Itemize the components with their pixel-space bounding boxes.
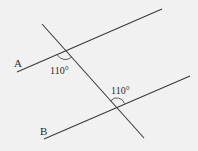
angle-1-label: 110° [50, 65, 69, 76]
transversal-line [42, 24, 144, 138]
line-b-label: B [40, 125, 47, 137]
line-a [17, 9, 162, 72]
line-a-label: A [14, 57, 22, 69]
angle-2-label: 110° [111, 85, 130, 96]
angle-arc-1 [58, 55, 72, 59]
diagram-canvas: A B 110° 110° [0, 0, 198, 151]
parallel-lines-diagram: A B 110° 110° [0, 0, 198, 151]
